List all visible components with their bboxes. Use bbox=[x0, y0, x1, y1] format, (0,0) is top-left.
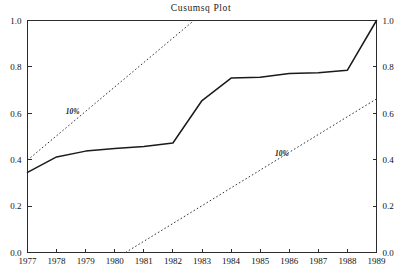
significance-band-line bbox=[28, 21, 194, 161]
y-tick-label-left: 0.8 bbox=[10, 62, 22, 72]
y-tick-label-left: 0.2 bbox=[10, 201, 21, 211]
x-tick-label: 1977 bbox=[19, 256, 38, 266]
x-tick-label: 1984 bbox=[222, 256, 241, 266]
plot-frame bbox=[28, 21, 377, 253]
y-tick-label-left: 0.6 bbox=[10, 109, 22, 119]
x-tick-label: 1986 bbox=[280, 256, 299, 266]
axis-ticks bbox=[28, 21, 377, 253]
significance-band-line bbox=[126, 99, 377, 253]
plot-border bbox=[28, 21, 377, 253]
y-tick-label-right: 0.2 bbox=[383, 201, 394, 211]
y-tick-label-right: 0.8 bbox=[383, 62, 395, 72]
x-tick-label: 1981 bbox=[135, 256, 153, 266]
x-tick-label: 1979 bbox=[77, 256, 96, 266]
y-tick-label-right: 0.6 bbox=[383, 109, 395, 119]
cusumsq-series-line bbox=[28, 21, 377, 173]
upper-band-label: 10% bbox=[66, 107, 80, 116]
y-tick-label-right: 1.0 bbox=[383, 16, 395, 26]
significance-bands bbox=[28, 21, 377, 253]
cusumsq-plot-figure: Cusumsq Plot 0.00.00.20.20.40.40.60.60.8… bbox=[0, 0, 402, 275]
x-tick-label: 1987 bbox=[309, 256, 328, 266]
x-tick-label: 1980 bbox=[106, 256, 125, 266]
x-tick-label: 1978 bbox=[48, 256, 67, 266]
y-tick-label-right: 0.4 bbox=[383, 155, 395, 165]
x-tick-label: 1982 bbox=[164, 256, 182, 266]
lower-band-label: 10% bbox=[275, 149, 289, 158]
axis-tick-labels: 0.00.00.20.20.40.40.60.60.80.81.01.01977… bbox=[10, 16, 394, 266]
x-tick-label: 1985 bbox=[251, 256, 270, 266]
chart-title: Cusumsq Plot bbox=[171, 3, 231, 13]
plot-canvas: Cusumsq Plot 0.00.00.20.20.40.40.60.60.8… bbox=[0, 0, 402, 275]
data-series bbox=[28, 21, 377, 173]
y-tick-label-left: 0.4 bbox=[10, 155, 22, 165]
x-tick-label: 1983 bbox=[193, 256, 212, 266]
x-tick-label: 1988 bbox=[338, 256, 357, 266]
y-tick-label-left: 1.0 bbox=[10, 16, 22, 26]
x-tick-label: 1989 bbox=[368, 256, 387, 266]
